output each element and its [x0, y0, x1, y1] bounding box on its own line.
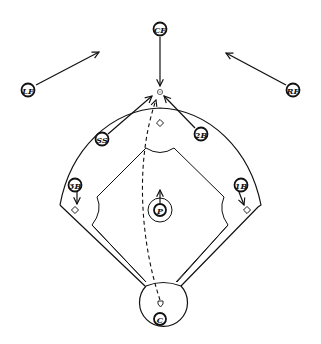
- home-plate: [158, 301, 163, 307]
- player-ss: SS: [96, 133, 109, 146]
- player-lf: LF: [21, 84, 35, 97]
- ball-path-arrow: [142, 100, 160, 300]
- player-cf-label: CF: [154, 25, 167, 35]
- player-rf-label: RF: [286, 86, 301, 96]
- player-c: C: [154, 313, 166, 325]
- first-base: [243, 206, 250, 213]
- 1b-arrow: [239, 192, 244, 205]
- player-rf: RF: [286, 84, 301, 97]
- player-c-label: C: [157, 315, 164, 325]
- player-ss-label: SS: [96, 135, 108, 145]
- player-3b: 3B: [69, 179, 82, 192]
- lf-arrow: [36, 52, 99, 85]
- rf-arrow: [226, 53, 286, 85]
- player-p: P: [154, 204, 166, 216]
- baseball-field-diagram: CF LF RF SS 2B 3B 1B P C: [0, 0, 321, 344]
- ss-arrow: [108, 96, 152, 134]
- player-2b-label: 2B: [194, 130, 208, 140]
- 2b-arrow: [164, 96, 195, 128]
- player-cf: CF: [154, 23, 168, 36]
- second-base: [156, 119, 163, 126]
- player-lf-label: LF: [21, 86, 35, 96]
- player-1b-label: 1B: [235, 181, 248, 191]
- third-base: [71, 206, 78, 213]
- player-1b: 1B: [235, 179, 248, 192]
- player-3b-label: 3B: [69, 181, 82, 191]
- player-p-label: P: [156, 206, 164, 216]
- player-2b: 2B: [194, 128, 208, 141]
